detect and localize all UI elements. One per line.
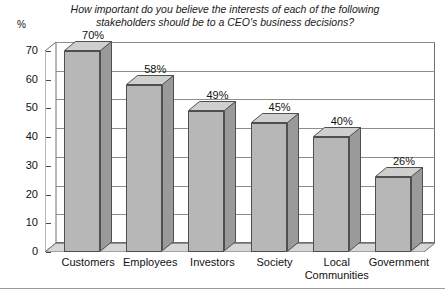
bar-value-label: 70% [69,29,117,41]
bar-value-label: 49% [193,89,241,101]
bar-column[interactable] [251,114,287,252]
y-axis-tick-mark [46,166,51,167]
bar-top-face [375,167,423,177]
y-axis-tick-label: 60 [12,73,38,85]
y-axis-tick-mark [46,108,51,109]
bar-side-face [100,41,112,252]
bar-front-face [188,111,224,252]
bar-top-face [313,127,361,137]
y-axis-tick-mark [46,51,51,52]
bar-front-face [251,123,287,252]
bar-front-face [375,177,411,252]
bar-value-label: 26% [380,155,428,167]
bar-column[interactable] [313,128,349,252]
bar-value-label: 45% [256,101,304,113]
bar-column[interactable] [64,42,100,252]
bar-side-face [224,101,236,252]
y-axis-tick-label: 70 [12,44,38,56]
chart-title: How important do you believe the interes… [60,3,390,29]
bar-front-face [126,85,162,252]
y-axis-tick-label: 0 [12,245,38,257]
gridline [56,128,435,129]
chart-title-line-1: How important do you believe the interes… [60,3,390,16]
y-axis-unit-label: % [17,19,26,30]
bar-value-label: 40% [318,115,366,127]
bar-column[interactable] [188,102,224,252]
y-axis-tick-mark [46,137,51,138]
y-axis-tick-label: 30 [12,159,38,171]
y-axis-tick-mark [46,80,51,81]
y-axis: 706050403020100 [8,42,38,252]
gridline [56,71,435,72]
bar-side-face [411,167,423,252]
bar-column[interactable] [126,76,162,252]
gridline [56,99,435,100]
gridline [56,157,435,158]
x-axis-category-label: Government [363,256,435,269]
bar-top-face [64,41,112,51]
y-axis-tick-mark [46,252,51,253]
x-axis-labels: CustomersEmployeesInvestorsSocietyLocalC… [45,256,440,290]
bar-value-label: 58% [131,63,179,75]
bar-side-face [162,75,174,252]
x-axis-category-line: Communities [301,269,373,282]
y-axis-tick-label: 50 [12,101,38,113]
chart-title-line-2: stakeholders should be to a CEO's busine… [60,16,390,29]
bar-column[interactable] [375,168,411,252]
gridline [56,42,435,43]
y-axis-tick-label: 10 [12,216,38,228]
bar-front-face [313,137,349,252]
bar-top-face [126,75,174,85]
bar-side-face [349,127,361,252]
bar-top-face [251,113,299,123]
chart-container: How important do you believe the interes… [0,0,445,295]
bar-side-face [287,113,299,252]
bar-top-face [188,101,236,111]
bar-front-face [64,51,100,252]
y-axis-tick-label: 40 [12,130,38,142]
y-axis-tick-label: 20 [12,188,38,200]
chart-left-wall [45,42,57,252]
plot-area: 70%58%49%45%40%26% [45,42,435,252]
y-axis-tick-mark [46,223,51,224]
bottom-divider [0,288,445,289]
x-axis-category-line: Government [363,256,435,269]
y-axis-tick-mark [46,195,51,196]
